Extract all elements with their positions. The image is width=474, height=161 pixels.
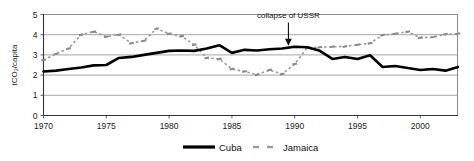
jamaica-point-2001 xyxy=(431,37,436,38)
y-tick-label-3: 3 xyxy=(33,50,38,60)
x-tick-label-1985: 1985 xyxy=(222,121,241,131)
y-tick-label-5: 5 xyxy=(33,10,38,20)
emissions-per-capita-chart: 012345 1970197519801985199019952000 coll… xyxy=(0,0,474,161)
jamaica-point-1982 xyxy=(192,44,197,45)
x-tick-label-1995: 1995 xyxy=(348,121,367,131)
jamaica-point-2000 xyxy=(418,37,423,38)
jamaica-point-1972 xyxy=(66,48,71,49)
jamaica-point-1984 xyxy=(217,58,222,59)
jamaica-point-1987 xyxy=(255,74,260,75)
jamaica-point-2002 xyxy=(443,34,448,35)
jamaica-point-1996 xyxy=(368,43,373,44)
y-tick-label-0: 0 xyxy=(33,111,38,121)
chart-background xyxy=(0,0,474,161)
jamaica-point-1992 xyxy=(318,47,323,48)
y-tick-label-2: 2 xyxy=(33,70,38,80)
jamaica-point-1994 xyxy=(343,46,348,47)
jamaica-point-1999 xyxy=(405,31,410,32)
x-tick-label-1970: 1970 xyxy=(34,121,53,131)
jamaica-point-1997 xyxy=(380,35,385,36)
x-tick-label-1975: 1975 xyxy=(97,121,116,131)
x-tick-label-1980: 1980 xyxy=(160,121,179,131)
jamaica-point-1973 xyxy=(79,34,84,35)
x-tick-label-2000: 2000 xyxy=(411,121,430,131)
jamaica-point-1974 xyxy=(91,31,96,32)
jamaica-point-1995 xyxy=(355,44,360,45)
chart-canvas: 012345 1970197519801985199019952000 coll… xyxy=(0,0,474,161)
jamaica-point-1998 xyxy=(393,33,398,34)
jamaica-point-1978 xyxy=(142,40,147,41)
x-tick-label-1990: 1990 xyxy=(285,121,304,131)
jamaica-point-1975 xyxy=(104,36,109,37)
jamaica-point-1989 xyxy=(280,74,285,75)
legend-label-jamaica: Jamaica xyxy=(283,142,319,153)
jamaica-point-1981 xyxy=(179,36,184,37)
jamaica-point-1988 xyxy=(267,70,272,71)
legend-label-cuba: Cuba xyxy=(219,142,242,153)
jamaica-point-1970 xyxy=(41,59,46,60)
jamaica-point-1971 xyxy=(54,53,59,54)
jamaica-point-1977 xyxy=(129,43,134,44)
jamaica-point-1986 xyxy=(242,71,247,72)
y-tick-label-1: 1 xyxy=(33,90,38,100)
y-tick-label-4: 4 xyxy=(33,30,38,40)
jamaica-point-1990 xyxy=(292,63,297,64)
jamaica-point-1993 xyxy=(330,46,335,47)
jamaica-point-2003 xyxy=(456,33,461,34)
jamaica-point-1979 xyxy=(154,28,159,29)
jamaica-point-1985 xyxy=(230,69,235,70)
jamaica-point-1980 xyxy=(167,33,172,34)
jamaica-point-1983 xyxy=(204,57,209,58)
y-axis-title: tCO₂/capita xyxy=(10,44,19,85)
annotation-label: collapse of USSR xyxy=(257,11,320,20)
jamaica-point-1976 xyxy=(117,34,122,35)
